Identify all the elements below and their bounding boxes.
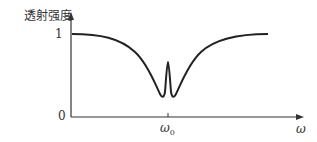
x-axis-label: ω (296, 122, 306, 136)
y-tick-1: 1 (55, 27, 63, 41)
transmission-chart: 透射强度 1 0 ω0 ω (0, 0, 317, 142)
x-tick-omega: ω (160, 121, 170, 135)
x-tick-subscript: 0 (170, 128, 175, 137)
y-axis-label: 透射强度 (24, 6, 72, 23)
y-tick-0: 0 (58, 109, 66, 123)
x-axis-arrow-icon (296, 114, 304, 120)
x-tick-omega0: ω0 (160, 121, 175, 137)
transmission-curve (72, 34, 268, 97)
